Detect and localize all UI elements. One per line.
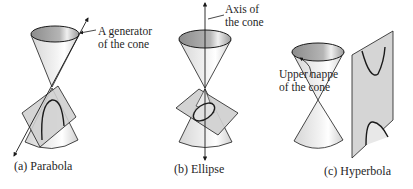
caption-hyperbola: (c) Hyperbola xyxy=(324,164,391,179)
hyperbola-figure xyxy=(292,31,393,158)
upper-rim xyxy=(31,26,79,42)
nappe-annotation-line2: of the cone xyxy=(279,81,338,94)
lower-nappe xyxy=(294,100,343,148)
upper-rim xyxy=(292,43,344,61)
nappe-annotation-line1: Upper nappe xyxy=(279,68,338,81)
generator-leader xyxy=(80,30,96,33)
axis-annotation: Axis of the cone xyxy=(225,3,264,28)
axis-leader xyxy=(208,15,224,19)
parabola-figure xyxy=(14,18,96,156)
caption-ellipse: (b) Ellipse xyxy=(174,162,224,177)
generator-annotation-line2: of the cone xyxy=(98,38,152,51)
axis-annotation-line1: Axis of xyxy=(225,3,264,16)
generator-annotation-line1: A generator xyxy=(98,25,152,38)
nappe-annotation: Upper nappe of the cone xyxy=(279,68,338,93)
axis-annotation-line2: the cone xyxy=(225,16,264,29)
caption-parabola: (a) Parabola xyxy=(14,159,72,174)
generator-annotation: A generator of the cone xyxy=(98,25,152,50)
